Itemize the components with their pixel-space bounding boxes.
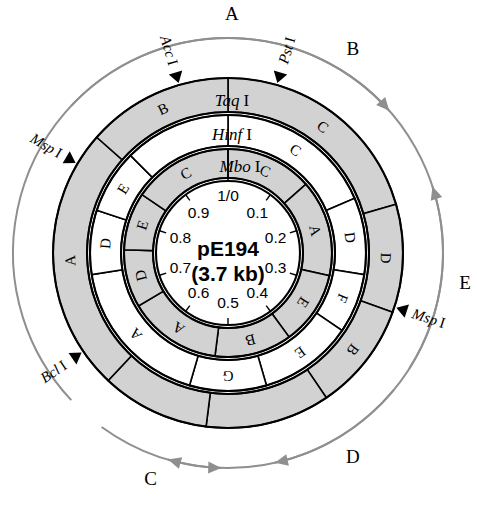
- fragment-arc-label: B: [347, 38, 360, 59]
- scale-tick: [160, 273, 167, 275]
- scale-tick: [290, 273, 297, 275]
- fragment-arc-label: D: [346, 446, 360, 467]
- scale-tick: [266, 306, 270, 312]
- enzyme-label-mbo: MboI: [219, 157, 261, 176]
- restriction-site-label: MspI: [409, 305, 447, 331]
- scale-tick-label: 0.2: [265, 229, 287, 246]
- ring-segment-label: D: [341, 231, 358, 244]
- scale-tick-label: 0.3: [265, 259, 287, 276]
- scale-tick-label: 0.6: [188, 284, 210, 301]
- scale-tick: [160, 231, 167, 233]
- scale-tick-label: 0.7: [170, 259, 192, 276]
- fragment-arc-label: E: [459, 272, 471, 293]
- scale-tick: [186, 306, 190, 312]
- restriction-site-marker: [169, 71, 186, 85]
- fragment-arc: [410, 187, 443, 369]
- scale-tick: [266, 195, 270, 201]
- scale-tick: [290, 231, 297, 233]
- scale-tick-label: 0.4: [247, 284, 269, 301]
- plasmid-size: (3.7 kb): [191, 262, 265, 285]
- fragment-arc-label: C: [144, 468, 157, 489]
- ring-segment-label: D: [97, 237, 114, 249]
- scale-tick-label: 0.9: [188, 204, 210, 221]
- enzyme-label-taq: TaqI: [215, 91, 250, 110]
- center-label-layer: pE194 (3.7 kb): [191, 237, 265, 285]
- restriction-site-label: MspI: [27, 130, 65, 162]
- scale-tick-label: 0.8: [170, 229, 192, 246]
- fragment-arc-label: A: [225, 3, 239, 24]
- restriction-site-marker: [271, 71, 288, 85]
- restriction-site-label: PstI: [275, 35, 298, 67]
- ring-segment-label: A: [62, 254, 79, 266]
- scale-tick: [186, 195, 190, 201]
- ring-segment-label: D: [378, 252, 394, 263]
- plasmid-name: pE194: [197, 237, 259, 260]
- enzyme-label-hinf: HinfI: [211, 125, 252, 144]
- fragment-arc: [102, 427, 222, 468]
- scale-tick-label: 0.1: [247, 204, 269, 221]
- ring-segment-label: G: [222, 368, 233, 384]
- restriction-site-label: AccI: [157, 33, 181, 68]
- plasmid-map: AEDCB CDBABTaqICDFEGADEHinfICAEBADECMboI…: [0, 0, 477, 506]
- scale-origin-label: 1/0: [217, 187, 239, 204]
- fragment-arc-arrowhead: [166, 454, 182, 469]
- scale-tick-label: 0.5: [217, 294, 239, 311]
